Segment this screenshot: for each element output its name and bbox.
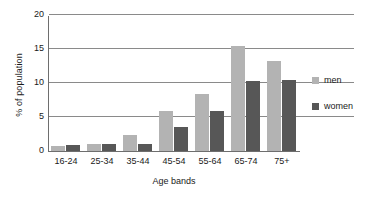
bar-women [210, 111, 224, 151]
bar-men [267, 61, 281, 151]
y-axis-tick-label: 5 [39, 112, 44, 121]
bar-men [195, 94, 209, 151]
legend: men women [312, 76, 353, 128]
bar-men [123, 135, 137, 151]
bar-women [246, 81, 260, 151]
bar-men [159, 111, 173, 151]
legend-label-women: women [324, 102, 353, 111]
x-axis-title: Age bands [48, 176, 300, 186]
y-axis-tick-label: 15 [34, 44, 44, 53]
y-axis-tick-label: 20 [34, 10, 44, 19]
bar-women [174, 127, 188, 151]
bar-group [121, 16, 157, 151]
bar-women [138, 144, 152, 151]
bar-group [85, 16, 121, 151]
bar-chart: % of population 05101520 16-2425-3435-44… [0, 0, 373, 206]
bar-group [193, 16, 229, 151]
bar-women [102, 144, 116, 151]
bars-layer [49, 16, 300, 151]
legend-swatch-men-icon [312, 77, 319, 84]
plot-area: 05101520 [48, 16, 300, 152]
y-axis-title: % of population [14, 25, 24, 145]
legend-label-men: men [324, 76, 342, 85]
y-axis-tick-label: 10 [34, 78, 44, 87]
legend-item-women: women [312, 102, 353, 111]
bar-men [87, 144, 101, 151]
legend-item-men: men [312, 76, 353, 85]
bar-men [231, 46, 245, 151]
bar-group [265, 16, 301, 151]
bar-women [66, 145, 80, 151]
bar-men [51, 146, 65, 151]
bar-group [49, 16, 85, 151]
gridline: 20 [49, 14, 354, 15]
bar-women [282, 80, 296, 151]
legend-swatch-women-icon [312, 103, 319, 110]
bar-group [157, 16, 193, 151]
y-axis-tick-label: 0 [39, 146, 44, 155]
x-axis-tick-label: 75+ [255, 157, 309, 166]
bar-group [229, 16, 265, 151]
